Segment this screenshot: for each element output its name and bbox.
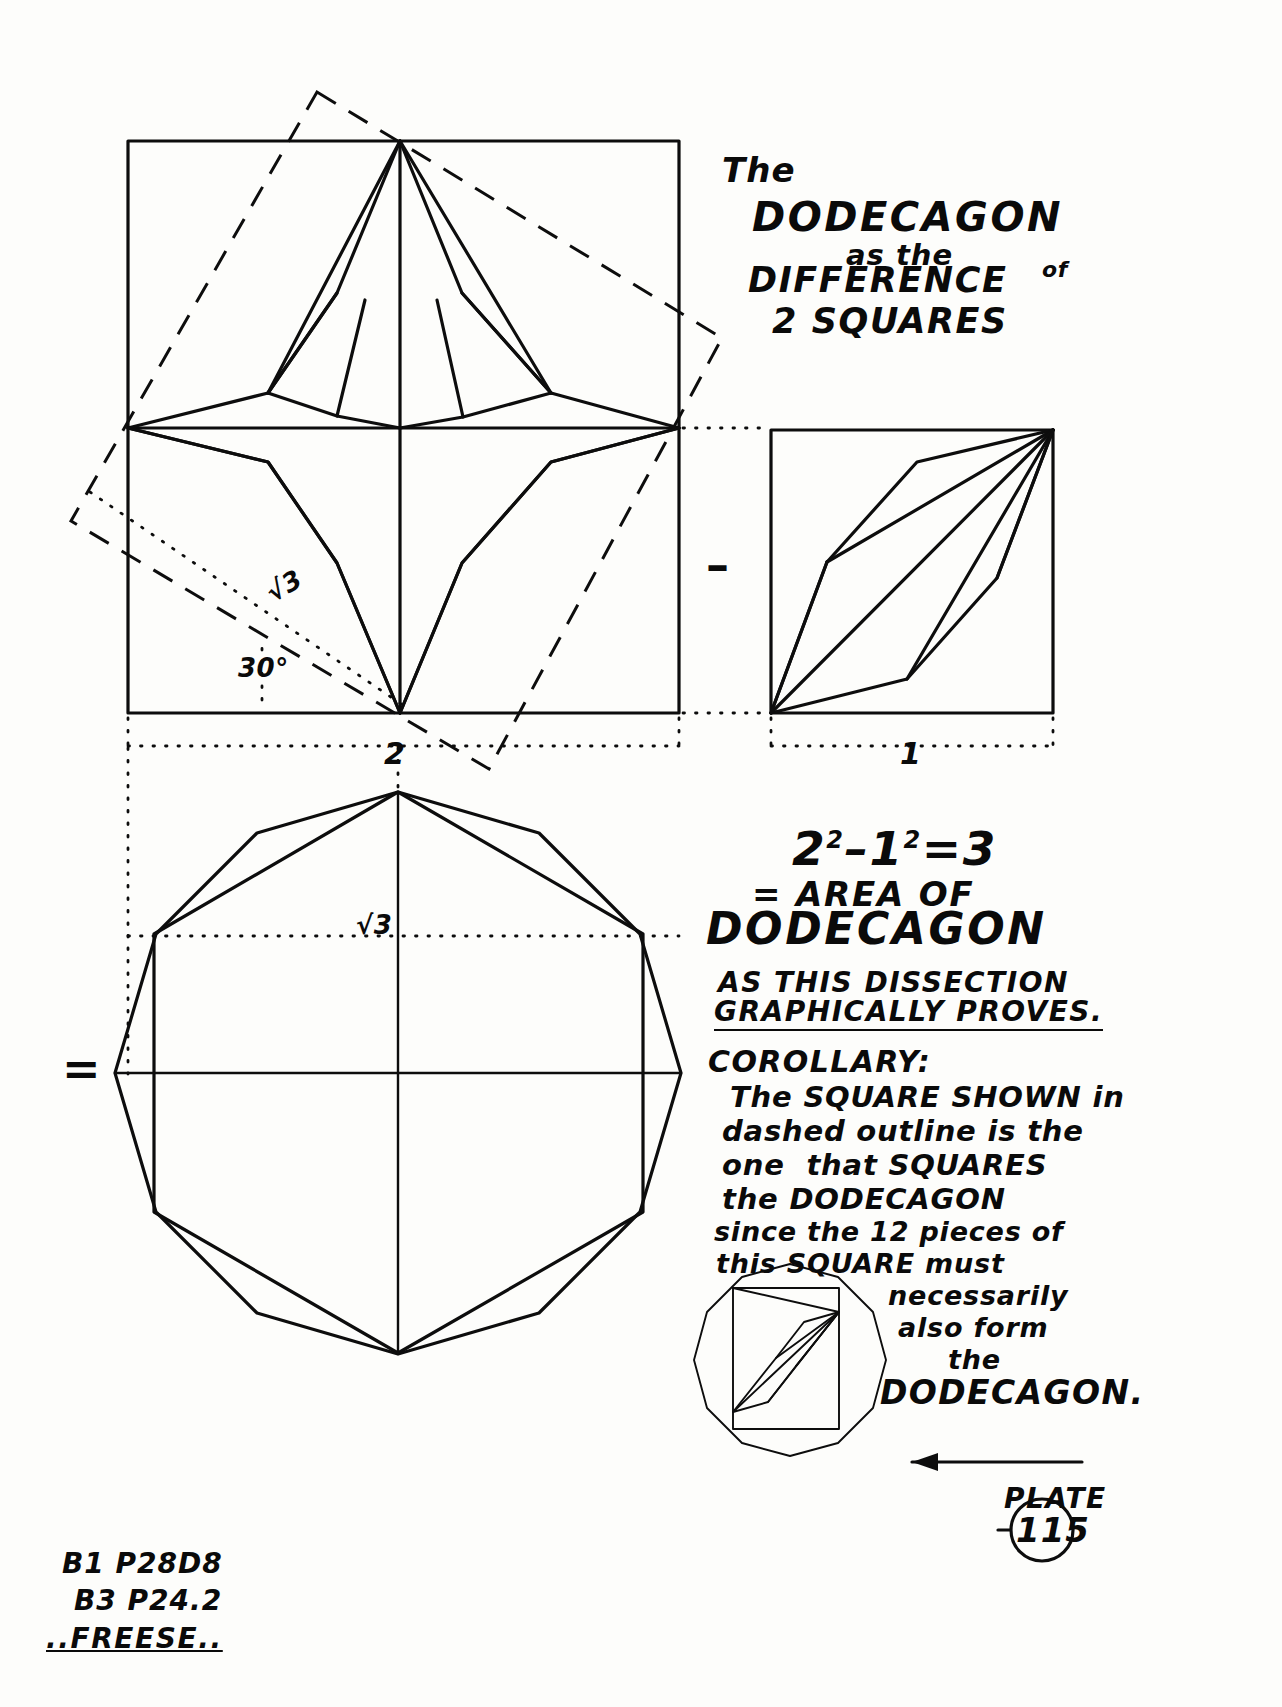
corollary-line-9: the (948, 1346, 1001, 1375)
corollary-line-6: this SQUARE must (716, 1250, 1005, 1279)
minus-operator: – (706, 538, 729, 592)
eq-sign: = (922, 821, 963, 876)
main-equation: 22–12=3 (792, 824, 997, 874)
star-cut-upper-right-b (462, 293, 551, 393)
title-line-the: The (722, 152, 795, 188)
title-line-2-squares: 2 SQUARES (772, 303, 1008, 340)
footer-reference-2: B3 P24.2 (74, 1586, 222, 1616)
corollary-line-5: since the 12 pieces of (714, 1218, 1064, 1247)
title-line-dodecagon: DODECAGON (752, 196, 1063, 238)
pointer-arrow (912, 1453, 1082, 1471)
inset-cut-a (733, 1312, 839, 1412)
small-square-cut-e (997, 430, 1053, 578)
corollary-line-8: also form (898, 1314, 1048, 1343)
angle-30-label: 30° (238, 655, 289, 683)
equals-operator: = (62, 1042, 101, 1096)
radical-3-dodecagon-label: √3 (356, 912, 392, 940)
corollary-line-10: DODECAGON. (880, 1376, 1144, 1411)
dashed-square-outline (71, 92, 722, 769)
corollary-line-1: The SQUARE SHOWN in (730, 1082, 1125, 1113)
eq-base-2: 1 (869, 821, 903, 876)
plate-artwork: .ink { fill:none; stroke:#0d0d0d; stroke… (0, 0, 1282, 1707)
star-cut-upper-left-d (268, 393, 400, 428)
corollary-heading: COROLLARY: (708, 1046, 931, 1078)
corollary-line-7: necessarily (888, 1282, 1068, 1311)
drawing-sheet: .ink { fill:none; stroke:#0d0d0d; stroke… (0, 0, 1282, 1707)
corollary-inset-figure (694, 1264, 886, 1456)
eq-minus: – (844, 821, 869, 876)
inset-diag (733, 1288, 839, 1312)
proof-line-1: AS THIS DISSECTION (718, 968, 1069, 998)
eq-result: 3 (963, 821, 997, 876)
dodecagon-group (115, 792, 681, 1354)
star-cut-upper-left-c (337, 300, 365, 416)
arrow-head (912, 1453, 938, 1471)
dimension-label-1: 1 (900, 738, 921, 770)
proof-line-2: GRAPHICALLY PROVES. (714, 997, 1103, 1031)
star-cut-upper-right-a (400, 141, 551, 393)
title-line-difference: DIFFERENCE (748, 262, 1008, 299)
small-square-group (771, 430, 1053, 713)
eq-exp-2: 2 (904, 826, 922, 854)
corollary-line-2: dashed outline is the (722, 1116, 1084, 1147)
footer-author: ..FREESE.. (46, 1624, 223, 1654)
star-cut-upper-right-d (400, 393, 551, 428)
star-cut-upper-right-c (437, 300, 463, 417)
eq-exp-1: 2 (826, 826, 844, 854)
footer-reference-1: B1 P28D8 (62, 1549, 223, 1579)
corollary-line-4: the DODECAGON (722, 1184, 1006, 1215)
inset-dodecagon (694, 1264, 886, 1456)
title-line-of: of (1042, 258, 1068, 281)
star-cut-upper-left-a (268, 141, 400, 393)
corollary-line-3: one that SQUARES (722, 1150, 1047, 1181)
eq-base-1: 2 (792, 821, 826, 876)
star-cut-lower-right (400, 428, 679, 713)
small-square-cut-d (771, 562, 827, 713)
dashed-tilted-square (71, 92, 722, 769)
equation-dodecagon: DODECAGON (706, 906, 1047, 953)
large-square-group (128, 141, 679, 713)
dimension-label-2: 2 (384, 738, 405, 770)
plate-number: 115 (1016, 1512, 1090, 1548)
star-cut-upper-left-b (268, 293, 337, 393)
